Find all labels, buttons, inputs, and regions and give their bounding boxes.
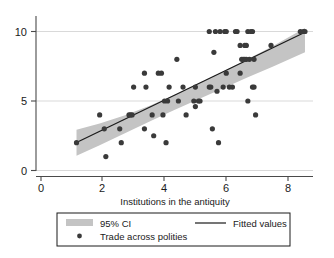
x-tick-label-8: 8 — [285, 182, 291, 194]
scatter-point — [184, 112, 189, 117]
scatter-point — [207, 29, 212, 34]
scatter-point — [251, 85, 256, 90]
scatter-point — [217, 29, 222, 34]
scatter-point — [250, 29, 255, 34]
scatter-point — [208, 85, 213, 90]
scatter-point — [191, 98, 196, 103]
scatter-point — [142, 71, 147, 76]
scatter-point — [180, 85, 185, 90]
scatter-point — [150, 112, 155, 117]
scatter-point — [224, 29, 229, 34]
scatter-point — [238, 43, 243, 48]
scatter-point — [193, 85, 198, 90]
scatter-point — [253, 112, 258, 117]
legend-label-points: Trade across polities — [100, 231, 188, 242]
x-tick-label-2: 2 — [99, 182, 105, 194]
scatter-point — [160, 112, 165, 117]
legend: 95% CI Fitted values Trade across politi… — [57, 213, 290, 246]
y-tick-label-10: 10 — [15, 26, 27, 38]
x-tick-label-0: 0 — [38, 182, 44, 194]
scatter-point — [165, 98, 170, 103]
legend-label-ci: 95% CI — [100, 218, 131, 229]
scatter-point — [302, 29, 307, 34]
scatter-point — [234, 29, 239, 34]
scatter-point — [129, 112, 134, 117]
legend-swatch-marker — [77, 234, 82, 239]
scatter-point — [213, 29, 218, 34]
scatter-point — [211, 50, 216, 55]
scatter-point — [238, 71, 243, 76]
scatter-point — [210, 126, 215, 131]
scatter-point — [216, 140, 221, 145]
scatter-point — [167, 85, 172, 90]
scatter-point — [117, 126, 122, 131]
x-axis-title: Institutions in the antiquity — [120, 196, 230, 207]
scatter-point — [103, 154, 108, 159]
scatter-point — [221, 85, 226, 90]
scatter-point — [163, 140, 168, 145]
scatter-point — [268, 43, 273, 48]
scatter-point — [245, 98, 250, 103]
x-tick-label-6: 6 — [223, 182, 229, 194]
scatter-point — [102, 126, 107, 131]
y-tick-label-0: 0 — [21, 165, 27, 177]
chart-figure: 0 5 10 0 2 4 6 8 Institutions in the ant… — [0, 0, 334, 258]
scatter-point — [251, 57, 256, 62]
scatter-point — [197, 98, 202, 103]
scatter-plot: 0 5 10 0 2 4 6 8 Institutions in the ant… — [0, 0, 334, 258]
scatter-point — [143, 85, 148, 90]
scatter-point — [193, 104, 198, 109]
scatter-point — [131, 85, 136, 90]
scatter-point — [174, 57, 179, 62]
scatter-point — [159, 71, 164, 76]
scatter-point — [214, 89, 219, 94]
scatter-point — [176, 98, 181, 103]
scatter-point — [224, 71, 229, 76]
scatter-point — [74, 140, 79, 145]
scatter-point — [247, 57, 252, 62]
y-tick-label-5: 5 — [21, 95, 27, 107]
scatter-point — [151, 133, 156, 138]
scatter-point — [244, 43, 249, 48]
legend-swatch-ci — [66, 219, 93, 226]
x-tick-label-4: 4 — [161, 182, 167, 194]
legend-label-fitted: Fitted values — [233, 218, 287, 229]
scatter-point — [230, 85, 235, 90]
scatter-point — [97, 112, 102, 117]
scatter-point — [119, 140, 124, 145]
scatter-point — [142, 126, 147, 131]
